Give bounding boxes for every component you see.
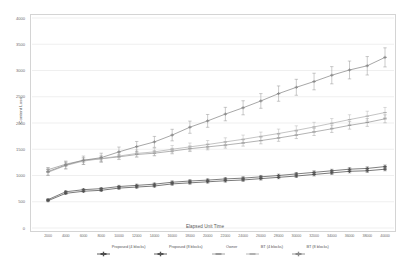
legend-item[interactable]: Owner bbox=[212, 243, 238, 249]
y-tick-label: 3500 bbox=[3, 42, 25, 47]
chart-legend: Proposed (4 blocks)Proposed (8 blocks)Ow… bbox=[30, 240, 396, 252]
series-1 bbox=[46, 165, 386, 201]
legend-item[interactable]: Proposed (8 blocks) bbox=[154, 243, 202, 249]
series-0 bbox=[46, 168, 386, 203]
y-tick-label: 1000 bbox=[3, 173, 25, 178]
legend-label: Proposed (4 blocks) bbox=[112, 244, 146, 249]
y-tick-label: 500 bbox=[3, 199, 25, 204]
legend-marker-icon bbox=[246, 243, 259, 249]
series-line bbox=[48, 57, 385, 171]
y-axis-title: Content Loss bbox=[18, 81, 23, 141]
series-line bbox=[48, 119, 385, 170]
y-tick-label: 1500 bbox=[3, 147, 25, 152]
series-4 bbox=[46, 48, 386, 175]
legend-item[interactable]: BT (4 blocks) bbox=[246, 243, 283, 249]
legend-label: Owner bbox=[226, 244, 237, 249]
chart-container: 05001000150020002500300035004000 2000400… bbox=[0, 0, 411, 276]
legend-item[interactable]: Proposed (4 blocks) bbox=[97, 243, 145, 249]
series-line bbox=[48, 169, 385, 201]
legend-item[interactable]: BT (8 blocks) bbox=[292, 243, 329, 249]
legend-marker-icon bbox=[292, 243, 305, 249]
legend-marker-icon bbox=[212, 243, 225, 249]
x-tick-label: 40000 bbox=[375, 234, 395, 238]
series-line bbox=[48, 113, 385, 173]
y-tick-label: 3000 bbox=[3, 68, 25, 73]
y-tick-label: 4000 bbox=[3, 16, 25, 21]
data-series-group bbox=[46, 48, 386, 202]
y-tick-label: 0 bbox=[3, 226, 25, 231]
legend-marker-icon bbox=[97, 243, 110, 249]
x-axis-title: Elapsed Unit Time bbox=[125, 224, 285, 229]
legend-label: BT (4 blocks) bbox=[261, 244, 283, 249]
gridlines bbox=[32, 18, 394, 228]
legend-label: Proposed (8 blocks) bbox=[169, 244, 203, 249]
legend-marker-icon bbox=[154, 243, 167, 249]
legend-label: BT (8 blocks) bbox=[307, 244, 329, 249]
series-line bbox=[48, 167, 385, 200]
